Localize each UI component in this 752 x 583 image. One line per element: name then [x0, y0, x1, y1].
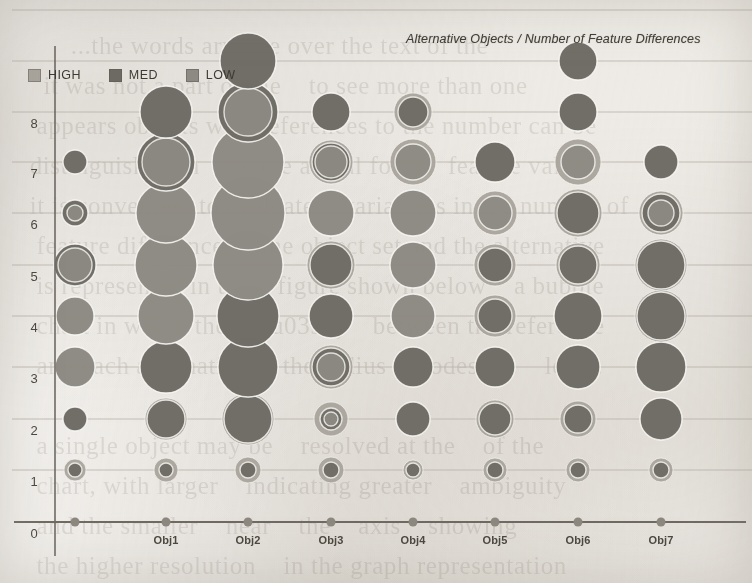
bubble-marker[interactable]: [473, 191, 517, 235]
bubble-low[interactable]: [55, 347, 95, 387]
bubble-low[interactable]: [391, 294, 435, 338]
bubble-marker[interactable]: [393, 347, 433, 387]
bubble-marker[interactable]: [475, 347, 515, 387]
bubble-marker[interactable]: [394, 93, 432, 131]
bubble-marker[interactable]: [639, 191, 683, 235]
bubble-low[interactable]: [56, 297, 94, 335]
bubble-marker[interactable]: [566, 458, 590, 482]
bubble-marker[interactable]: [636, 342, 686, 392]
bubble-low[interactable]: [317, 353, 345, 381]
bubble-med[interactable]: [140, 341, 192, 393]
bubble-marker[interactable]: [403, 460, 423, 480]
bubble-marker[interactable]: [556, 243, 600, 287]
bubble-marker[interactable]: [555, 139, 601, 185]
bubble-med[interactable]: [323, 462, 339, 478]
bubble-marker[interactable]: [307, 241, 355, 289]
bubble-marker[interactable]: [475, 142, 515, 182]
legend-item-low[interactable]: LOW: [186, 68, 236, 82]
bubble-marker[interactable]: [559, 93, 597, 131]
bubble-med[interactable]: [159, 463, 173, 477]
bubble-marker[interactable]: [64, 459, 86, 481]
bubble-med[interactable]: [556, 345, 600, 389]
bubble-med[interactable]: [310, 244, 352, 286]
bubble-med[interactable]: [557, 192, 599, 234]
bubble-marker[interactable]: [635, 290, 687, 342]
bubble-marker[interactable]: [62, 200, 88, 226]
bubble-marker[interactable]: [222, 393, 274, 445]
bubble-low[interactable]: [390, 242, 436, 288]
bubble-marker[interactable]: [474, 295, 516, 337]
bubble-marker[interactable]: [556, 345, 600, 389]
bubble-marker[interactable]: [140, 86, 192, 138]
bubble-marker[interactable]: [396, 402, 430, 436]
bubble-marker[interactable]: [635, 239, 687, 291]
bubble-med[interactable]: [147, 400, 185, 438]
bubble-med[interactable]: [475, 142, 515, 182]
bubble-marker[interactable]: [474, 244, 516, 286]
bubble-marker[interactable]: [312, 93, 350, 131]
bubble-med[interactable]: [559, 42, 597, 80]
bubble-med[interactable]: [637, 292, 685, 340]
bubble-marker[interactable]: [644, 145, 678, 179]
bubble-med[interactable]: [478, 248, 512, 282]
bubble-med[interactable]: [406, 463, 420, 477]
bubble-marker[interactable]: [63, 150, 87, 174]
bubble-low[interactable]: [67, 205, 83, 221]
bubble-marker[interactable]: [391, 294, 435, 338]
bubble-med[interactable]: [554, 292, 602, 340]
bubble-low[interactable]: [308, 190, 354, 236]
bubble-low[interactable]: [136, 183, 196, 243]
bubble-low[interactable]: [224, 88, 272, 136]
bubble-med[interactable]: [637, 241, 685, 289]
bubble-marker[interactable]: [309, 140, 353, 184]
bubble-marker[interactable]: [314, 402, 348, 436]
bubble-marker[interactable]: [136, 183, 196, 243]
bubble-marker[interactable]: [318, 457, 344, 483]
bubble-marker[interactable]: [55, 347, 95, 387]
bubble-med[interactable]: [478, 299, 512, 333]
x-tick-dot-0[interactable]: [71, 518, 80, 527]
bubble-marker[interactable]: [640, 398, 682, 440]
x-tick-dot-obj5[interactable]: [491, 518, 500, 527]
bubble-med[interactable]: [559, 93, 597, 131]
bubble-marker[interactable]: [390, 242, 436, 288]
bubble-marker[interactable]: [309, 294, 353, 338]
bubble-low[interactable]: [324, 412, 338, 426]
bubble-med[interactable]: [309, 294, 353, 338]
bubble-marker[interactable]: [137, 133, 195, 191]
bubble-med[interactable]: [224, 395, 272, 443]
bubble-low[interactable]: [395, 144, 431, 180]
bubble-low[interactable]: [315, 146, 347, 178]
bubble-med[interactable]: [640, 398, 682, 440]
bubble-low[interactable]: [390, 190, 436, 236]
bubble-med[interactable]: [653, 462, 669, 478]
x-tick-dot-obj3[interactable]: [327, 518, 336, 527]
x-tick-dot-obj6[interactable]: [574, 518, 583, 527]
bubble-low[interactable]: [58, 248, 92, 282]
legend-item-high[interactable]: HIGH: [28, 68, 81, 82]
bubble-med[interactable]: [240, 462, 256, 478]
bubble-marker[interactable]: [390, 190, 436, 236]
x-tick-dot-obj4[interactable]: [409, 518, 418, 527]
bubble-marker[interactable]: [235, 457, 261, 483]
bubble-marker[interactable]: [56, 297, 94, 335]
bubble-med[interactable]: [396, 402, 430, 436]
bubble-marker[interactable]: [140, 341, 192, 393]
bubble-low[interactable]: [478, 196, 512, 230]
bubble-marker[interactable]: [559, 42, 597, 80]
bubble-med[interactable]: [63, 407, 87, 431]
bubble-low[interactable]: [142, 138, 190, 186]
bubble-med[interactable]: [564, 405, 592, 433]
bubble-med[interactable]: [636, 342, 686, 392]
bubble-marker[interactable]: [63, 407, 87, 431]
bubble-marker[interactable]: [554, 292, 602, 340]
bubble-marker[interactable]: [154, 458, 178, 482]
bubble-med[interactable]: [140, 86, 192, 138]
bubble-marker[interactable]: [554, 189, 602, 237]
x-tick-dot-obj7[interactable]: [657, 518, 666, 527]
bubble-med[interactable]: [475, 347, 515, 387]
x-tick-dot-obj2[interactable]: [244, 518, 253, 527]
bubble-med[interactable]: [479, 403, 511, 435]
bubble-med[interactable]: [559, 246, 597, 284]
bubble-marker[interactable]: [476, 400, 514, 438]
